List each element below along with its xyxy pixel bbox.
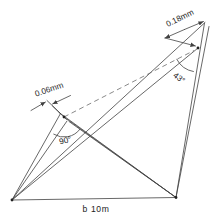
left-target-point bbox=[63, 116, 66, 119]
dashed-sight-line bbox=[64, 51, 194, 118]
baseline-b bbox=[12, 198, 176, 201]
label-left-angle: 90° bbox=[58, 135, 72, 147]
rays-from-left-station bbox=[12, 23, 205, 201]
label-right-offset: 0.18mm bbox=[165, 8, 196, 29]
survey-triangulation-diagram: 0.06mm 0.18mm 90° 43° b 10m bbox=[0, 0, 215, 221]
angle-arc-43 bbox=[177, 59, 194, 72]
rays-from-right-station bbox=[59, 23, 209, 198]
label-left-offset: 0.06mm bbox=[34, 81, 65, 99]
right-target-point bbox=[197, 47, 200, 50]
left-station-point bbox=[11, 199, 14, 202]
diagram-canvas: 0.06mm 0.18mm 90° 43° b 10m bbox=[0, 0, 215, 221]
right-station-point bbox=[175, 196, 178, 199]
label-right-angle: 43° bbox=[171, 71, 186, 86]
label-baseline: b 10m bbox=[83, 204, 110, 214]
